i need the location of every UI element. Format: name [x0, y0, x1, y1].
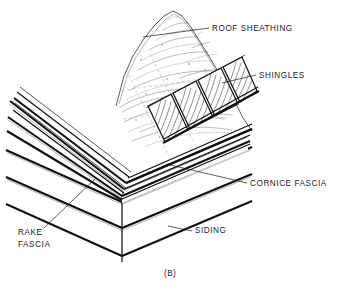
label-cornice-fascia: CORNICE FASCIA [250, 179, 327, 188]
siding-right-face [122, 150, 250, 262]
label-shingles: SHINGLES [259, 71, 305, 80]
label-siding: SIDING [195, 226, 227, 235]
roof-construction-diagram: ROOF SHEATHING SHINGLES CORNICE FASCIA S… [0, 0, 343, 295]
label-roof-sheathing: ROOF SHEATHING [212, 24, 293, 33]
label-rake-fascia-line2: FASCIA [18, 240, 50, 249]
figure-caption: (B) [164, 269, 176, 278]
figure-container: ROOF SHEATHING SHINGLES CORNICE FASCIA S… [0, 0, 343, 295]
label-rake-fascia-line1: RAKE [18, 228, 43, 237]
